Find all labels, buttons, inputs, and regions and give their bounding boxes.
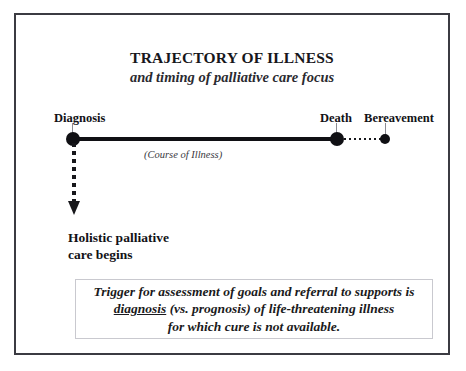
arrow-shaft: [72, 143, 76, 201]
trigger-line-2-rest: (vs. prognosis) of life-threatening illn…: [166, 301, 394, 316]
palliative-care-caption-line1: Holistic palliative: [68, 229, 169, 246]
palliative-care-caption: Holistic palliative care begins: [68, 229, 169, 263]
trigger-line-1: Trigger for assessment of goals and refe…: [94, 283, 415, 301]
timeline-dot-bereavement: [380, 134, 390, 144]
trigger-line-3: for which cure is not available.: [168, 318, 341, 336]
timeline-label-bereavement: Bereavement: [346, 111, 452, 125]
palliative-care-caption-line2: care begins: [68, 246, 169, 263]
trigger-callout-box: Trigger for assessment of goals and refe…: [75, 279, 433, 339]
timeline-dot-death: [330, 132, 344, 146]
course-of-illness-line: [73, 137, 338, 141]
timeline-label-diagnosis: Diagnosis: [54, 111, 105, 125]
trigger-line-2: diagnosis (vs. prognosis) of life-threat…: [114, 300, 395, 318]
bereavement-dotted-line: [344, 138, 382, 140]
course-of-illness-caption: (Course of Illness): [144, 149, 222, 160]
slide-frame: TRAJECTORY OF ILLNESS and timing of pall…: [14, 13, 450, 355]
trigger-underlined-word: diagnosis: [114, 301, 167, 316]
palliative-care-down-arrow-icon: [68, 143, 80, 221]
arrow-head-icon: [68, 201, 80, 215]
